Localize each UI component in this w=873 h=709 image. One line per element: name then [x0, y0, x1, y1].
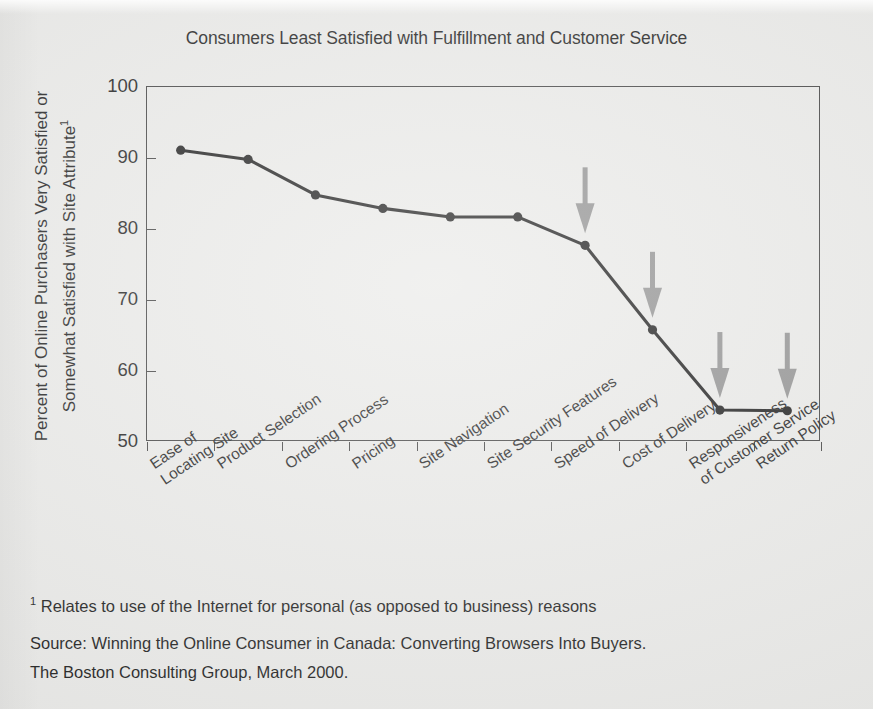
- data-point-marker: [176, 146, 185, 155]
- y-axis-title-line-2: Somewhat Satisfied with Site Attribute1: [53, 56, 81, 476]
- x-axis-tick-mark: [686, 442, 687, 451]
- plot-area: [146, 86, 820, 441]
- x-axis-tick-mark: [619, 442, 620, 451]
- source-line-2: The Boston Consulting Group, March 2000.: [30, 663, 348, 682]
- y-axis-tick-label: 70: [92, 288, 138, 310]
- y-axis-tick-label: 90: [92, 146, 138, 168]
- data-series: [147, 87, 821, 442]
- x-axis-tick-mark: [282, 442, 283, 451]
- chart-page: Consumers Least Satisfied with Fulfillme…: [0, 0, 873, 709]
- data-point-marker: [513, 212, 522, 221]
- x-axis-tick-mark: [417, 442, 418, 451]
- footnote-attribute: 1 Relates to use of the Internet for per…: [30, 595, 597, 616]
- x-axis-tick-mark: [349, 442, 350, 451]
- footnote-text: Relates to use of the Internet for perso…: [36, 597, 596, 615]
- source-line-1: Source: Winning the Online Consumer in C…: [30, 634, 646, 653]
- arrow-shaft: [583, 167, 588, 205]
- y-axis-tick-label: 100: [92, 75, 138, 97]
- x-axis-tick-mark: [484, 442, 485, 451]
- x-axis-tick-mark: [551, 442, 552, 451]
- data-point-marker: [648, 325, 657, 334]
- plot-inner: [147, 87, 819, 440]
- data-point-marker: [446, 212, 455, 221]
- data-point-marker: [581, 241, 590, 250]
- callout-arrow-icon: [710, 332, 729, 398]
- data-point-marker: [244, 155, 253, 164]
- arrow-shaft: [650, 252, 655, 290]
- arrow-shaft: [785, 333, 790, 371]
- data-point-marker: [311, 190, 320, 199]
- y-axis-tick-label: 60: [92, 359, 138, 381]
- data-point-marker: [378, 204, 387, 213]
- x-axis-tick-mark: [821, 442, 822, 451]
- callout-arrow-icon: [576, 167, 595, 233]
- y-axis-title: Percent of Online Purchasers Very Satisf…: [30, 56, 76, 476]
- y-axis-title-line-1: Percent of Online Purchasers Very Satisf…: [30, 56, 53, 476]
- y-axis-title-line-2-text: Somewhat Satisfied with Site Attribute: [60, 126, 79, 412]
- callout-arrow-icon: [643, 252, 662, 318]
- arrow-head: [576, 203, 595, 233]
- arrow-head: [710, 368, 729, 398]
- y-axis-tick-label: 80: [92, 217, 138, 239]
- chart-title: Consumers Least Satisfied with Fulfillme…: [0, 28, 873, 49]
- y-axis-title-footnote-marker: 1: [58, 120, 70, 126]
- series-line: [181, 150, 788, 411]
- arrow-head: [643, 288, 662, 318]
- arrow-shaft: [717, 332, 722, 370]
- x-axis-tick-mark: [147, 442, 148, 451]
- y-axis-tick-label: 50: [92, 430, 138, 452]
